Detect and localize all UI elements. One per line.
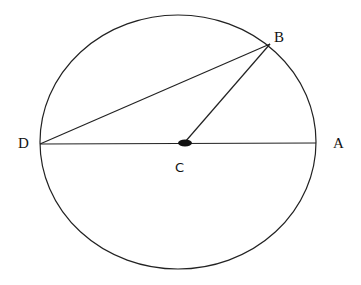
label-A: A	[333, 135, 344, 151]
chord-DB	[40, 44, 270, 144]
label-D: D	[18, 135, 29, 151]
center-point	[178, 140, 192, 147]
label-B: B	[274, 29, 284, 45]
label-C: C	[175, 160, 184, 175]
radius-CB	[185, 44, 270, 142]
diameter-DA	[40, 143, 316, 144]
circle-diagram: B D A C	[0, 0, 361, 285]
circle-outline	[40, 15, 316, 269]
